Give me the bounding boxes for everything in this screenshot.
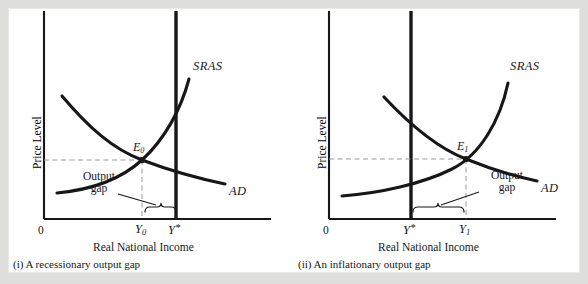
chart-panel-inflationary: Price Level SRAS AD E1 Output gap 0 Y* Y… (294, 9, 579, 272)
equilibrium-label-e0: E0 (133, 141, 144, 155)
x-tick-label-ystar-superscript: * (410, 222, 415, 233)
origin-label: 0 (323, 225, 329, 237)
x-tick-label-ystar: Y* (403, 223, 415, 237)
panel-caption-recessionary: (i) A recessionary output gap (13, 259, 140, 270)
output-gap-brace (413, 203, 464, 212)
x-tick-label-ystar-letter: Y (403, 223, 410, 237)
output-gap-label: Output gap (68, 170, 130, 195)
ad-curve-label: AD (229, 185, 246, 198)
x-axis-title: Real National Income (378, 242, 479, 254)
x-axis-title: Real National Income (93, 242, 194, 254)
y-axis-title: Price Level (31, 116, 43, 169)
x-tick-label-y0: Y0 (135, 223, 146, 236)
equilibrium-point-e0 (139, 157, 145, 163)
output-gap-label-line1: Output (476, 169, 538, 181)
output-gap-leader-line (118, 194, 156, 205)
x-tick-label-y1: Y1 (459, 223, 470, 236)
chart-canvas-recessionary (9, 9, 294, 272)
x-tick-label-y1-subscript: 1 (466, 227, 470, 237)
panel-caption-inflationary: (ii) An inflationary output gap (298, 259, 431, 270)
sras-curve-label: SRAS (510, 60, 539, 73)
x-tick-label-y0-subscript: 0 (142, 227, 146, 237)
chart-canvas-inflationary (294, 9, 579, 272)
output-gap-label-line2: gap (476, 181, 538, 193)
x-tick-label-y1-letter: Y (459, 222, 466, 236)
origin-label: 0 (38, 225, 44, 237)
equilibrium-label-e1-subscript: 1 (464, 145, 468, 154)
equilibrium-label-e1: E1 (457, 140, 468, 154)
x-tick-label-y0-letter: Y (135, 222, 142, 236)
output-gap-label: Output gap (476, 169, 538, 194)
output-gap-brace (145, 203, 176, 212)
equilibrium-point-e1 (463, 156, 469, 162)
x-tick-label-ystar: Y* (168, 223, 180, 237)
output-gap-leader-line (441, 192, 479, 205)
x-tick-label-ystar-superscript: * (175, 222, 180, 233)
y-axis-title: Price Level (316, 116, 328, 169)
sras-curve-label: SRAS (193, 60, 222, 73)
output-gap-label-line1: Output (68, 170, 130, 182)
equilibrium-label-e0-subscript: 0 (140, 146, 144, 155)
output-gap-label-line2: gap (68, 182, 130, 194)
ad-curve-label: AD (541, 182, 558, 195)
figure-panel: Price Level SRAS AD E0 Output gap 0 Y0 Y… (9, 9, 579, 272)
x-tick-label-ystar-letter: Y (168, 223, 175, 237)
chart-panel-recessionary: Price Level SRAS AD E0 Output gap 0 Y0 Y… (9, 9, 294, 272)
